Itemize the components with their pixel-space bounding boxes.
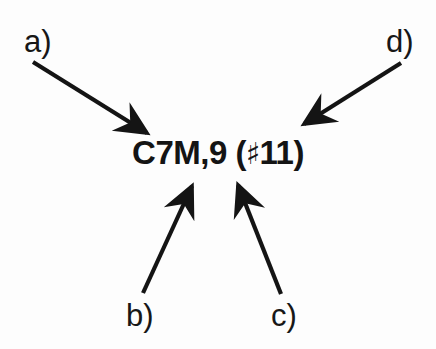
chord-symbol-text: C7M,9 (♯11) [132, 134, 304, 171]
arrow-layer [0, 0, 436, 349]
callout-label-b: b) [126, 300, 154, 331]
arrow-d [304, 63, 401, 124]
chord-annotation-figure: C7M,9 (♯11) a) b) c) d) [0, 0, 436, 349]
sharp-sign-glyph: ♯ [246, 136, 260, 171]
arrow-c [238, 185, 281, 294]
callout-label-a: a) [24, 26, 52, 57]
callout-label-d: d) [386, 26, 414, 57]
arrow-a [33, 62, 147, 133]
chord-symbol: C7M,9 (♯11) [0, 136, 436, 169]
arrow-b [143, 186, 192, 293]
callout-label-c: c) [271, 300, 297, 331]
